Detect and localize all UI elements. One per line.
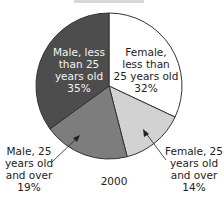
pie-chart: Male, less than 25 years old 35% Female,… (0, 0, 224, 199)
year-caption: 2000 (94, 175, 134, 187)
label-male-lt25: Male, less than 25 years old 35% (50, 46, 108, 94)
cropped-title (74, 0, 144, 3)
label-female-lt25: Female, less than 25 years old 32% (112, 46, 180, 94)
label-female-25plus: Female, 25 years old and over 14% (164, 145, 224, 193)
label-male-25plus: Male, 25 years old and over 19% (2, 145, 56, 193)
